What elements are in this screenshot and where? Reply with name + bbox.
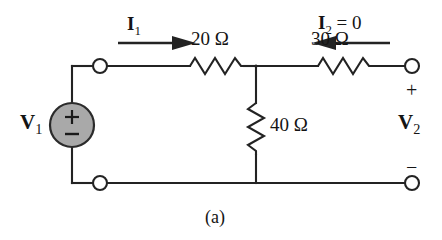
resistor-20-ohm-symbol [190,58,244,74]
output-plus-sign: + [406,80,417,100]
current-i1-sub: 1 [134,23,140,38]
resistor-40-ohm-label: 40 Ω [270,115,308,134]
junction-node-dot [254,64,257,67]
resistor-20-ohm-label: 20 Ω [191,29,229,48]
output-minus-sign: − [406,157,417,177]
resistor-40-ohm-symbol [248,103,264,155]
output-voltage-label: V2 [398,112,420,136]
figure-caption: (a) [205,208,225,226]
resistor-30-ohm-symbol [318,58,372,74]
terminal-output-top [405,59,419,73]
source-voltage-sub: 1 [35,121,42,137]
output-voltage-sub: 2 [413,121,420,137]
output-voltage-main: V [398,110,413,134]
source-voltage-main: V [20,110,35,134]
terminal-input-top [93,59,107,73]
resistor-30-ohm-label: 30 Ω [311,29,349,48]
terminal-input-bottom [93,176,107,190]
current-i1-label: I1 [127,14,141,38]
circuit-diagram-figure: V1 I1 I2 = 0 20 Ω 30 Ω 40 Ω + V2 − (a) [0,0,442,240]
current-arrow-i1 [118,36,196,50]
terminal-output-bottom [405,176,419,190]
voltage-source-symbol [50,103,94,147]
source-voltage-label: V1 [20,112,42,136]
